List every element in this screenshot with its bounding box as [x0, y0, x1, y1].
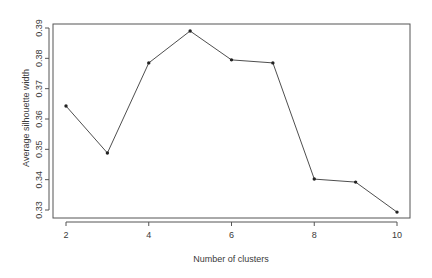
data-point: [147, 61, 150, 64]
y-tick-label: 0.36: [34, 110, 44, 128]
data-point: [106, 151, 109, 154]
y-tick-label: 0.39: [34, 19, 44, 37]
x-axis-label: Number of clusters: [193, 254, 269, 264]
y-tick-label: 0.37: [34, 80, 44, 98]
data-point: [271, 61, 274, 64]
x-tick-label: 2: [63, 230, 68, 240]
y-tick-label: 0.34: [34, 171, 44, 189]
y-axis-label: Average silhouette width: [21, 69, 31, 167]
y-tick-label: 0.38: [34, 50, 44, 68]
data-point: [188, 29, 191, 32]
y-axis: 0.330.340.350.360.370.380.39: [34, 19, 49, 219]
data-point: [395, 210, 398, 213]
line-chart: 0.330.340.350.360.370.380.39 246810 Numb…: [0, 0, 432, 278]
x-tick-label: 6: [229, 230, 234, 240]
x-axis: 246810: [63, 222, 402, 240]
x-tick-label: 10: [392, 230, 402, 240]
chart-container: 0.330.340.350.360.370.380.39 246810 Numb…: [0, 0, 432, 278]
y-tick-label: 0.33: [34, 201, 44, 219]
x-tick-label: 4: [146, 230, 151, 240]
data-point: [64, 104, 67, 107]
y-tick-label: 0.35: [34, 141, 44, 159]
x-tick-label: 8: [312, 230, 317, 240]
data-point: [230, 58, 233, 61]
data-point: [354, 180, 357, 183]
plot-frame: [53, 24, 410, 218]
data-point: [313, 177, 316, 180]
data-points: [64, 29, 398, 213]
